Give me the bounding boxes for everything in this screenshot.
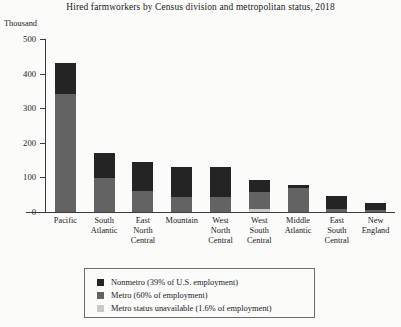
x-axis-label: WestNorthCentral: [201, 216, 240, 247]
legend-label: Nonmetro (39% of U.S. employment): [111, 278, 238, 287]
x-axis-label-line: East: [124, 216, 163, 226]
x-axis-label: EastNorthCentral: [124, 216, 163, 247]
x-axis-label-line: Middle: [279, 216, 318, 226]
bar-segment-nonmetro[interactable]: [171, 167, 192, 197]
x-axis-label-line: North: [201, 226, 240, 236]
bar-group[interactable]: [94, 39, 115, 212]
x-axis-label-line: Central: [317, 236, 356, 246]
bar-segment-nonmetro[interactable]: [249, 180, 270, 192]
x-axis-label-line: Central: [201, 236, 240, 246]
chart-figure: Hired farmworkers by Census division and…: [0, 0, 401, 327]
x-axis-label-line: North: [124, 226, 163, 236]
x-axis-label: WestSouthCentral: [240, 216, 279, 247]
legend-swatch-unavail: [97, 305, 104, 312]
bar-group[interactable]: [210, 39, 231, 212]
x-axis-label-line: England: [356, 226, 395, 236]
y-axis-tick-mark: [40, 108, 45, 109]
bar-segment-metro[interactable]: [249, 192, 270, 209]
x-axis-label-line: Atlantic: [279, 226, 318, 236]
y-axis-tick-label: 0: [0, 207, 36, 217]
x-axis-label: Mountain: [162, 216, 201, 226]
bar-segment-metro[interactable]: [326, 209, 347, 212]
x-axis-label-line: South: [240, 226, 279, 236]
y-axis-tick-label: 400: [0, 69, 36, 79]
bar-group[interactable]: [365, 39, 386, 212]
y-axis-tick-label: 100: [0, 172, 36, 182]
y-axis-tick-mark: [40, 39, 45, 40]
bar-segment-metro[interactable]: [55, 94, 76, 212]
plot-area: [46, 39, 395, 212]
chart-title: Hired farmworkers by Census division and…: [0, 2, 401, 12]
x-axis-label-line: Central: [240, 236, 279, 246]
bar-segment-nonmetro[interactable]: [55, 63, 76, 94]
y-axis-tick-label: 200: [0, 138, 36, 148]
y-axis-unit-label: Thousand: [4, 19, 37, 28]
chart-legend: Nonmetro (39% of U.S. employment)Metro (…: [84, 268, 315, 318]
x-axis-label: SouthAtlantic: [85, 216, 124, 236]
bar-segment-nonmetro[interactable]: [210, 167, 231, 197]
x-axis-label-line: East: [317, 216, 356, 226]
bar-segment-nonmetro[interactable]: [288, 185, 309, 188]
y-axis-tick-label: 300: [0, 103, 36, 113]
x-axis-line: [26, 212, 395, 213]
bar-segment-nonmetro[interactable]: [326, 196, 347, 208]
bar-group[interactable]: [171, 39, 192, 212]
x-axis-label-line: Mountain: [162, 216, 201, 226]
bar-segment-unavail[interactable]: [249, 209, 270, 212]
x-axis-label: NewEngland: [356, 216, 395, 236]
legend-label: Metro (60% of employment): [111, 291, 208, 300]
x-axis-label: MiddleAtlantic: [279, 216, 318, 236]
legend-item[interactable]: Nonmetro (39% of U.S. employment): [97, 275, 238, 289]
x-axis-label-line: South: [85, 216, 124, 226]
y-axis-tick-mark: [40, 143, 45, 144]
bar-segment-nonmetro[interactable]: [94, 153, 115, 179]
bar-segment-metro[interactable]: [210, 197, 231, 212]
x-axis-label-line: West: [201, 216, 240, 226]
legend-item[interactable]: Metro (60% of employment): [97, 288, 208, 302]
y-axis-tick-label: 500: [0, 34, 36, 44]
legend-item[interactable]: Metro status unavailable (1.6% of employ…: [97, 301, 271, 315]
bar-group[interactable]: [55, 39, 76, 212]
x-axis-label-line: New: [356, 216, 395, 226]
bar-group[interactable]: [288, 39, 309, 212]
bar-group[interactable]: [249, 39, 270, 212]
x-axis-label-line: Pacific: [46, 216, 85, 226]
bar-segment-metro[interactable]: [132, 191, 153, 212]
legend-label: Metro status unavailable (1.6% of employ…: [111, 304, 271, 313]
bar-group[interactable]: [326, 39, 347, 212]
x-axis-label-line: West: [240, 216, 279, 226]
bar-segment-nonmetro[interactable]: [365, 203, 386, 210]
y-axis-tick-mark: [40, 212, 45, 213]
bar-segment-metro[interactable]: [365, 210, 386, 212]
y-axis-tick-mark: [40, 177, 45, 178]
bar-segment-nonmetro[interactable]: [132, 162, 153, 190]
legend-swatch-metro: [97, 292, 104, 299]
x-axis-label-line: Atlantic: [85, 226, 124, 236]
y-axis-tick-mark: [40, 74, 45, 75]
bar-group[interactable]: [132, 39, 153, 212]
x-axis-label-line: Central: [124, 236, 163, 246]
x-axis-label-line: South: [317, 226, 356, 236]
bar-segment-metro[interactable]: [288, 188, 309, 212]
bar-segment-metro[interactable]: [171, 197, 192, 212]
legend-swatch-nonmetro: [97, 279, 104, 286]
bar-segment-metro[interactable]: [94, 178, 115, 212]
x-axis-label: EastSouthCentral: [317, 216, 356, 247]
x-axis-label: Pacific: [46, 216, 85, 226]
